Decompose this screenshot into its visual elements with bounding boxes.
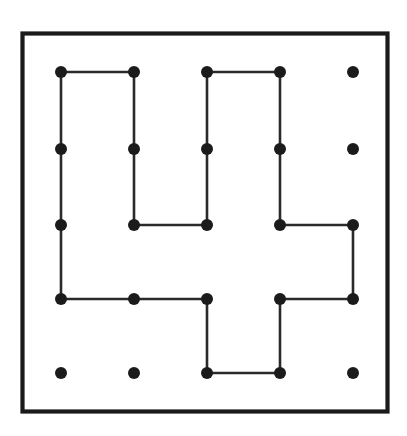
lattice-dot-c3r3[interactable]	[201, 219, 213, 231]
lattice-dot-c5r4[interactable]	[347, 293, 359, 305]
lattice-dot-c3r5[interactable]	[201, 367, 213, 379]
lattice-polygon-figure	[0, 0, 407, 436]
lattice-dot-c1r4[interactable]	[55, 293, 67, 305]
lattice-dot-c3r4[interactable]	[201, 293, 213, 305]
lattice-dot-c5r1[interactable]	[347, 66, 359, 78]
lattice-dot-c4r1[interactable]	[274, 66, 286, 78]
lattice-dot-c1r5[interactable]	[55, 367, 67, 379]
lattice-dot-c2r1[interactable]	[128, 66, 140, 78]
lattice-dot-c2r3[interactable]	[128, 219, 140, 231]
lattice-dot-c2r4[interactable]	[128, 293, 140, 305]
lattice-dot-c1r2[interactable]	[55, 143, 67, 155]
lattice-dot-c1r3[interactable]	[55, 219, 67, 231]
lattice-dot-c5r3[interactable]	[347, 219, 359, 231]
lattice-dot-c2r5[interactable]	[128, 367, 140, 379]
lattice-dot-c5r5[interactable]	[347, 367, 359, 379]
lattice-dot-c2r2[interactable]	[128, 143, 140, 155]
lattice-dot-c4r5[interactable]	[274, 367, 286, 379]
lattice-dot-c1r1[interactable]	[55, 66, 67, 78]
lattice-dot-c3r1[interactable]	[201, 66, 213, 78]
lattice-dot-c5r2[interactable]	[347, 143, 359, 155]
lattice-dot-c4r3[interactable]	[274, 219, 286, 231]
lattice-dot-c4r4[interactable]	[274, 293, 286, 305]
lattice-dot-c3r2[interactable]	[201, 143, 213, 155]
lattice-dot-c4r2[interactable]	[274, 143, 286, 155]
figure-canvas: Lattice dot grid with closed pinwheel po…	[0, 0, 407, 436]
